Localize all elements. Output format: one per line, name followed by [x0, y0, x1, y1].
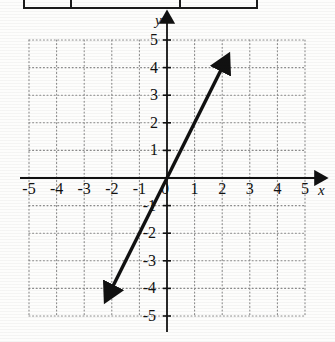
x-tick-label-neg4: -4: [46, 180, 68, 198]
y-tick-label-4: 4: [138, 59, 158, 77]
x-axis-label: x: [318, 182, 325, 199]
coordinate-plane: y x -5 -4 -3 -2 -1 0 1 2 3 4 5 5 4 3 2 1…: [0, 0, 335, 342]
y-axis-label: y: [155, 12, 162, 29]
x-tick-label-neg5: -5: [18, 180, 40, 198]
y-tick-label-5: 5: [138, 31, 158, 49]
x-tick-label-neg3: -3: [73, 180, 95, 198]
y-tick-label-1: 1: [138, 141, 158, 159]
y-tick-label-neg5: -5: [136, 307, 156, 325]
y-tick-label-neg4: -4: [136, 279, 156, 297]
origin-label: 0: [154, 180, 176, 198]
y-tick-label-neg1: -1: [136, 197, 156, 215]
x-tick-label-1: 1: [184, 180, 206, 198]
y-tick-label-2: 2: [138, 114, 158, 132]
y-tick-label-neg2: -2: [136, 224, 156, 242]
y-tick-label-3: 3: [138, 86, 158, 104]
x-tick-label-5: 5: [294, 180, 316, 198]
x-tick-label-neg1: -1: [128, 180, 150, 198]
x-tick-label-3: 3: [239, 180, 261, 198]
x-tick-label-2: 2: [211, 180, 233, 198]
figure-page: y x -5 -4 -3 -2 -1 0 1 2 3 4 5 5 4 3 2 1…: [0, 0, 335, 342]
x-tick-label-4: 4: [266, 180, 288, 198]
y-tick-label-neg3: -3: [136, 252, 156, 270]
x-tick-label-neg2: -2: [101, 180, 123, 198]
